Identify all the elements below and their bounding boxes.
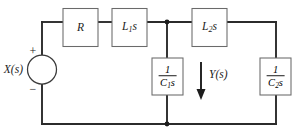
capacitor1-label: 1 C1s <box>158 64 177 90</box>
capacitor2-label: 1 C2s <box>266 64 285 90</box>
circuit-diagram: R L1s L2s 1 C1s 1 C2s X(s) + − Y(s) <box>0 0 300 139</box>
resistor-label: R <box>77 22 84 34</box>
voltage-source-symbol <box>28 55 57 84</box>
source-label: X(s) <box>4 64 23 76</box>
inductor2-label: L2s <box>202 21 217 34</box>
capacitor1-den-suffix: s <box>171 77 175 88</box>
capacitor2-denominator: C2s <box>266 77 285 90</box>
capacitor2-den-base: C <box>268 77 275 88</box>
source-plus-sign: + <box>30 45 37 57</box>
junction-dot-top <box>165 20 170 25</box>
inductor1-label: L1s <box>122 21 137 34</box>
capacitor1-numerator: 1 <box>158 64 177 75</box>
inductor2-label-suffix: s <box>212 20 216 32</box>
junction-dot-bottom <box>165 122 170 127</box>
source-minus-sign: − <box>30 83 37 95</box>
capacitor2-den-suffix: s <box>279 77 283 88</box>
output-arrow-head <box>197 89 206 100</box>
capacitor2-numerator: 1 <box>266 64 285 75</box>
inductor1-label-suffix: s <box>132 20 136 32</box>
capacitor1-denominator: C1s <box>158 77 177 90</box>
circuit-schematic-canvas <box>0 0 300 139</box>
capacitor1-den-base: C <box>160 77 167 88</box>
output-label: Y(s) <box>209 69 228 81</box>
